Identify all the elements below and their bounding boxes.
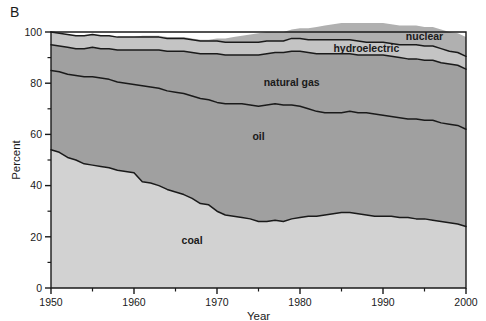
y-tick-label: 80 [30, 77, 42, 89]
y-tick-label: 0 [36, 282, 42, 294]
x-tick-label: 1960 [122, 296, 146, 308]
x-tick-label: 1980 [288, 296, 312, 308]
y-tick-label: 40 [30, 179, 42, 191]
x-tick-label: 1990 [371, 296, 395, 308]
y-tick-label: 100 [24, 26, 42, 38]
series-label-coal: coal [182, 234, 203, 246]
x-tick-label: 1950 [39, 296, 63, 308]
series-label-hydroelectric: hydroelectric [333, 42, 399, 54]
figure-panel-b: B 020406080100195019601970198019902000Ye… [0, 0, 486, 321]
y-tick-label: 20 [30, 231, 42, 243]
x-tick-label: 1970 [205, 296, 229, 308]
stacked-area-chart: 020406080100195019601970198019902000Year… [0, 0, 486, 321]
panel-letter: B [10, 4, 20, 20]
y-tick-label: 60 [30, 128, 42, 140]
series-label-natural-gas: natural gas [264, 76, 320, 88]
y-axis-title: Percent [10, 139, 22, 179]
series-label-oil: oil [252, 130, 264, 142]
x-tick-label: 2000 [454, 296, 478, 308]
series-label-nuclear: nuclear [406, 30, 443, 42]
x-axis-title: Year [247, 310, 270, 321]
